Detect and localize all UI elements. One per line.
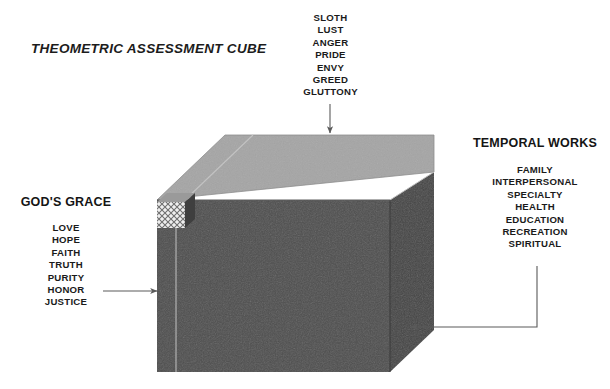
axis-term: PURITY [2, 272, 130, 284]
axis-heading-gods-grace: GOD'S GRACE [2, 195, 130, 209]
cube-side-face [390, 172, 434, 372]
axis-term: INTERPERSONAL [462, 176, 608, 188]
axis-term: FAITH [2, 247, 130, 259]
axis-heading-temporal-works: TEMPORAL WORKS [462, 136, 608, 150]
axis-term-list-right: FAMILY INTERPERSONAL SPECIALTY HEALTH ED… [462, 164, 608, 251]
axis-term: GREED [267, 74, 394, 86]
axis-term: PRIDE [267, 49, 394, 61]
axis-term: EDUCATION [462, 214, 608, 226]
axis-label-group-left: GOD'S GRACE LOVE HOPE FAITH TRUTH PURITY… [2, 195, 130, 309]
axis-term: TRUTH [2, 259, 130, 271]
axis-term: SLOTH [267, 12, 394, 24]
cross-hatched-unit-cube[interactable] [157, 202, 185, 228]
axis-term: ANGER [267, 37, 394, 49]
axis-term: HONOR [2, 284, 130, 296]
diagram-canvas: THEOMETRIC ASSESSMENT CUBE [0, 0, 610, 389]
axis-term: LOVE [2, 222, 130, 234]
axis-term: SPECIALTY [462, 189, 608, 201]
axis-label-group-top: SLOTH LUST ANGER PRIDE ENVY GREED GLUTTO… [267, 12, 394, 99]
axis-term: HOPE [2, 234, 130, 246]
axis-term: GLUTTONY [267, 86, 394, 98]
axis-term: FAMILY [462, 164, 608, 176]
axis-term: RECREATION [462, 226, 608, 238]
cube-front-face [157, 200, 390, 372]
axis-term-list-top: SLOTH LUST ANGER PRIDE ENVY GREED GLUTTO… [267, 12, 394, 99]
axis-term: HEALTH [462, 201, 608, 213]
axis-term: LUST [267, 24, 394, 36]
cube-top-face [157, 135, 434, 200]
axis-term: JUSTICE [2, 296, 130, 308]
axis-term: SPIRITUAL [462, 238, 608, 250]
axis-term: ENVY [267, 62, 394, 74]
axis-label-group-right: TEMPORAL WORKS FAMILY INTERPERSONAL SPEC… [462, 136, 608, 251]
axis-term-list-left: LOVE HOPE FAITH TRUTH PURITY HONOR JUSTI… [2, 222, 130, 309]
